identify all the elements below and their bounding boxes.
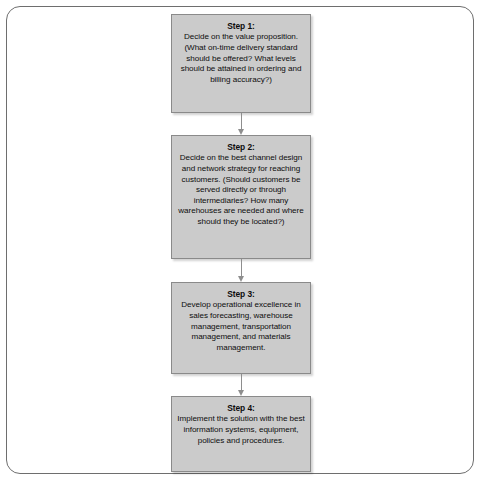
step-4-body: Implement the solution with the best inf… [177, 414, 305, 446]
flowchart-column: Step 1: Decide on the value proposition.… [171, 0, 311, 488]
arrow-shaft [241, 113, 242, 129]
step-1-title: Step 1: [177, 21, 305, 32]
flowchart-node-step-1: Step 1: Decide on the value proposition.… [171, 14, 311, 113]
step-3-body: Develop operational excellence in sales … [177, 300, 305, 353]
flowchart-node-step-4: Step 4: Implement the solution with the … [171, 396, 311, 472]
arrow-shaft [241, 374, 242, 390]
arrow-down-icon-step1-to-step2 [238, 113, 245, 135]
arrow-down-icon-step3-to-step4 [238, 374, 245, 396]
step-4-title: Step 4: [177, 403, 305, 414]
step-2-body: Decide on the best channel design and ne… [177, 153, 305, 227]
arrow-shaft [241, 259, 242, 276]
arrow-down-icon-step2-to-step3 [238, 259, 245, 282]
flowchart-node-step-2: Step 2: Decide on the best channel desig… [171, 135, 311, 259]
flowchart-node-step-3: Step 3: Develop operational excellence i… [171, 282, 311, 374]
step-1-body: Decide on the value proposition. (What o… [177, 32, 305, 85]
step-3-title: Step 3: [177, 289, 305, 300]
step-2-title: Step 2: [177, 142, 305, 153]
